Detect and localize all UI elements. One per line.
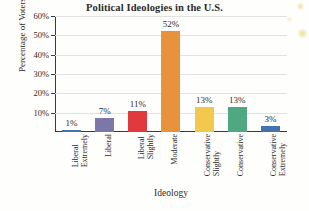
bar[interactable] xyxy=(261,126,280,132)
bar-slot: 11% xyxy=(121,16,154,132)
x-axis-tick-label-line: Liberal xyxy=(105,134,114,157)
y-axis-tick-label: 30% xyxy=(33,69,49,79)
x-axis-tick-label-line: Moderate xyxy=(171,134,180,165)
bar[interactable] xyxy=(161,31,180,132)
x-label-slot: SlightlyConservative xyxy=(188,134,221,186)
bar[interactable] xyxy=(62,130,81,132)
bar-slot: 52% xyxy=(154,16,187,132)
bar-series: 1%7%11%52%13%13%3% xyxy=(55,16,287,132)
bar-value-label: 52% xyxy=(163,20,180,29)
x-axis-tick-labels: ExtremelyLiberalLiberalSlightlyLiberalMo… xyxy=(55,134,287,186)
bar[interactable] xyxy=(128,111,147,132)
bar-value-label: 11% xyxy=(130,100,146,109)
x-axis-tick-label-line: Extremely xyxy=(279,134,288,176)
x-axis-tick-label-line: Liberal xyxy=(72,134,81,167)
x-label-slot: ExtremelyConservative xyxy=(254,134,287,186)
y-axis-tick-label: 50% xyxy=(33,30,49,40)
bar-slot: 13% xyxy=(221,16,254,132)
x-axis-tick-label: Conservative xyxy=(237,134,246,176)
x-axis-title: Ideology xyxy=(55,188,287,198)
bar-slot: 3% xyxy=(254,16,287,132)
x-label-slot: Moderate xyxy=(154,134,187,186)
bar[interactable] xyxy=(195,107,214,132)
x-axis-tick-label: SlightlyLiberal xyxy=(138,134,155,159)
y-axis-tick-label: 40% xyxy=(33,50,49,60)
bar[interactable] xyxy=(228,107,247,132)
bar-value-label: 13% xyxy=(229,96,246,105)
bar-value-label: 3% xyxy=(264,115,276,124)
y-axis-tick-label: 10% xyxy=(33,108,49,118)
bar-value-label: 7% xyxy=(99,107,111,116)
y-axis-title: Percentage of Voters xyxy=(17,0,27,90)
x-axis-tick-label-line: Conservative xyxy=(237,134,246,176)
x-axis-tick-label: ExtremelyConservative xyxy=(270,134,287,176)
y-axis-tick-label: 20% xyxy=(33,88,49,98)
chart-page: Political Ideologies in the U.S. Percent… xyxy=(0,0,309,211)
x-axis-tick-label: SlightlyConservative xyxy=(204,134,221,176)
x-axis-tick-label: Liberal xyxy=(105,134,114,157)
bar[interactable] xyxy=(95,118,114,132)
bar-value-label: 13% xyxy=(196,96,213,105)
bar-slot: 7% xyxy=(88,16,121,132)
bar-slot: 1% xyxy=(55,16,88,132)
x-axis-tick-label: ExtremelyLiberal xyxy=(72,134,89,167)
x-label-slot: Conservative xyxy=(221,134,254,186)
y-axis-tick-label: 60% xyxy=(33,11,49,21)
scan-artifact-icon xyxy=(286,16,293,23)
x-label-slot: SlightlyLiberal xyxy=(121,134,154,186)
x-label-slot: ExtremelyLiberal xyxy=(55,134,88,186)
bar-value-label: 1% xyxy=(66,119,78,128)
bar-slot: 13% xyxy=(188,16,221,132)
x-axis-tick-label: Moderate xyxy=(171,134,180,165)
x-label-slot: Liberal xyxy=(88,134,121,186)
plot-area: 10%20%30%40%50%60% 1%7%11%52%13%13%3% xyxy=(55,16,287,132)
scan-artifact-icon xyxy=(297,28,308,39)
